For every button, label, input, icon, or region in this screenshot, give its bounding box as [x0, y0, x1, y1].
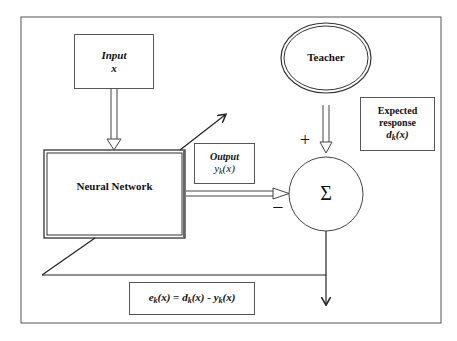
output-title: Output — [210, 151, 239, 163]
input-symbol: x — [111, 62, 117, 75]
neural-network-frame — [44, 150, 185, 238]
input-to-nn-arrow — [107, 89, 121, 150]
expected-symbol: dk(x) — [386, 128, 408, 142]
diagram-canvas: Input x Teacher Expected response dk(x) … — [0, 0, 457, 341]
error-equation-box: ek(x) = dk(x) - yk(x) — [129, 282, 255, 315]
plus-sign: + — [297, 130, 313, 151]
teacher-to-sum-arrow — [320, 105, 332, 153]
teacher-label: Teacher — [286, 51, 366, 64]
output-box: Output yk(x) — [194, 143, 255, 184]
feedback-diagonal — [42, 238, 95, 275]
expected-response-box: Expected response dk(x) — [360, 97, 435, 151]
error-equation: ek(x) = dk(x) - yk(x) — [149, 291, 236, 305]
summation-symbol: Σ — [306, 182, 346, 205]
minus-sign: − — [268, 196, 288, 219]
output-symbol: yk(x) — [214, 162, 235, 176]
expected-line1: Expected — [378, 105, 417, 117]
input-box: Input x — [74, 34, 154, 89]
input-title: Input — [101, 49, 126, 62]
expected-line2: response — [379, 117, 416, 129]
neural-network-label: Neural Network — [44, 180, 185, 193]
